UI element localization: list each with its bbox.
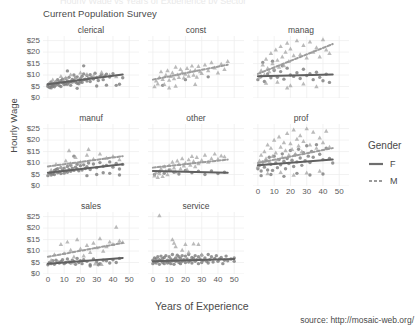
- facet-plot-area: [43, 36, 139, 98]
- legend-title: Gender: [368, 140, 420, 151]
- y-tick-label: $15: [16, 60, 40, 68]
- y-tick-label: $5: [16, 259, 40, 267]
- facet-plot-area: [253, 36, 349, 98]
- x-tick-label: 0: [250, 188, 266, 196]
- x-tick-label: 20: [72, 276, 88, 284]
- legend-item-M[interactable]: M: [368, 174, 420, 188]
- x-tick-label: 20: [282, 188, 298, 196]
- x-tick-label: 0: [145, 276, 161, 284]
- facet-strip-label: prof: [253, 112, 349, 124]
- x-tick-label: 50: [121, 276, 137, 284]
- y-tick-label: $5: [16, 171, 40, 179]
- facet-plot-area: [148, 124, 244, 186]
- source-note: source: http://mosaic-web.org/: [300, 315, 414, 325]
- clipped-title: Hourly Wage vs Years of Experience by Se…: [60, 0, 360, 4]
- legend-item-F[interactable]: F: [368, 157, 420, 171]
- facet-strip-label: other: [148, 112, 244, 124]
- facet-panel-service: service: [148, 200, 244, 274]
- x-axis-label: Years of Experience: [155, 300, 249, 312]
- x-tick-label: 20: [177, 276, 193, 284]
- x-tick-label: 10: [161, 276, 177, 284]
- x-tick-label: 30: [89, 276, 105, 284]
- x-tick-label: 30: [299, 188, 315, 196]
- chart-root: Hourly Wage vs Years of Experience by Se…: [0, 0, 420, 327]
- y-tick-label: $20: [16, 136, 40, 144]
- facet-strip-label: sales: [43, 200, 139, 212]
- facet-plot-area: [148, 212, 244, 274]
- facet-panel-sales: sales: [43, 200, 139, 274]
- y-tick-label: $0: [16, 270, 40, 278]
- y-tick-label: $25: [16, 213, 40, 221]
- facet-panel-clerical: clerical: [43, 24, 139, 98]
- legend-key-M: [368, 176, 384, 186]
- x-tick-label: 40: [105, 276, 121, 284]
- y-tick-label: $0: [16, 94, 40, 102]
- facet-strip-label: manuf: [43, 112, 139, 124]
- y-tick-label: $15: [16, 236, 40, 244]
- facet-strip-label: manag: [253, 24, 349, 36]
- facet-strip-label: service: [148, 200, 244, 212]
- x-tick-label: 40: [315, 188, 331, 196]
- facet-strip-label: const: [148, 24, 244, 36]
- facet-panel-manuf: manuf: [43, 112, 139, 186]
- y-tick-label: $15: [16, 148, 40, 156]
- x-tick-label: 0: [40, 276, 56, 284]
- y-tick-label: $25: [16, 125, 40, 133]
- y-tick-label: $10: [16, 71, 40, 79]
- legend-label-F: F: [390, 159, 396, 169]
- y-tick-label: $10: [16, 159, 40, 167]
- x-tick-label: 40: [210, 276, 226, 284]
- facet-panel-const: const: [148, 24, 244, 98]
- chart-subtitle: Current Population Survey: [43, 8, 157, 19]
- legend: Gender F M: [368, 140, 420, 191]
- y-tick-label: $25: [16, 37, 40, 45]
- facet-strip-label: clerical: [43, 24, 139, 36]
- facet-plot-area: [43, 124, 139, 186]
- x-tick-label: 10: [266, 188, 282, 196]
- x-tick-label: 10: [56, 276, 72, 284]
- facet-panel-manag: manag: [253, 24, 349, 98]
- y-tick-label: $10: [16, 247, 40, 255]
- y-tick-label: $20: [16, 48, 40, 56]
- facet-plot-area: [43, 212, 139, 274]
- y-tick-label: $20: [16, 224, 40, 232]
- facet-panel-prof: prof: [253, 112, 349, 186]
- x-tick-label: 50: [226, 276, 242, 284]
- legend-key-F: [368, 159, 384, 169]
- y-tick-label: $5: [16, 83, 40, 91]
- x-tick-label: 30: [194, 276, 210, 284]
- x-tick-label: 50: [331, 188, 347, 196]
- legend-items: F M: [368, 157, 420, 188]
- facet-plot-area: [253, 124, 349, 186]
- legend-label-M: M: [390, 176, 398, 186]
- facet-plot-area: [148, 36, 244, 98]
- y-tick-label: $0: [16, 182, 40, 190]
- facet-panel-other: other: [148, 112, 244, 186]
